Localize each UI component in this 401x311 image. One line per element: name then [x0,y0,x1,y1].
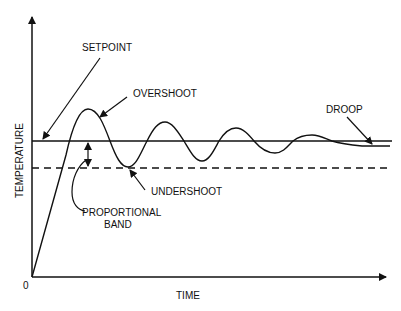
overshoot-arrow [100,97,127,117]
proportional-band-label-line2: BAND [104,219,132,230]
undershoot-arrow [130,170,145,190]
proportional-band-label-line1: PROPORTIONAL [82,207,161,218]
origin-label: 0 [23,280,29,291]
droop-arrow [347,117,372,144]
y-axis-label: TEMPERATURE [14,123,25,198]
undershoot-label: UNDERSHOOT [151,186,222,197]
diagram-canvas: SETPOINT OVERSHOOT UNDERSHOOT PROPORTION… [0,0,401,311]
overshoot-label: OVERSHOOT [133,88,197,99]
diagram-svg [0,0,401,311]
setpoint-arrow [43,58,100,139]
x-axis-label: TIME [176,290,200,301]
droop-label: DROOP [326,104,363,115]
setpoint-label: SETPOINT [82,42,132,53]
